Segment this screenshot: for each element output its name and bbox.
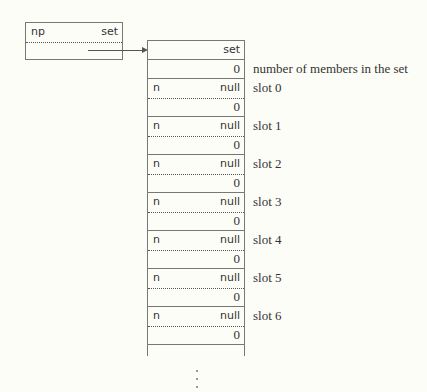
open-row [148, 344, 244, 356]
slot-value: 0 [234, 213, 241, 229]
slot-row-5: nnull 0 [148, 268, 244, 306]
slot-label-3: slot 3 [253, 194, 282, 210]
count-value: 0 [234, 61, 241, 77]
slot-next: null [220, 271, 240, 284]
pointer-arrow-line [88, 50, 145, 51]
set-struct-column: set 0 nnull 0 nnull 0 nnull 0 nnull 0 nn… [147, 40, 245, 356]
slot-label-2: slot 2 [253, 156, 282, 172]
slot-next: null [220, 309, 240, 322]
slot-name: n [153, 309, 160, 322]
set-type-label: set [101, 25, 118, 38]
count-row: 0 [148, 59, 244, 78]
slot-value: 0 [234, 99, 241, 115]
slot-next: null [220, 195, 240, 208]
slot-name: n [153, 233, 160, 246]
slot-name: n [153, 157, 160, 170]
count-annotation: number of members in the set [253, 61, 408, 77]
slot-next: null [220, 81, 240, 94]
slot-row-3: nnull 0 [148, 192, 244, 230]
slot-label-4: slot 4 [253, 232, 282, 248]
slot-row-2: nnull 0 [148, 154, 244, 192]
slot-label-0: slot 0 [253, 80, 282, 96]
continuation-dot [196, 378, 198, 380]
slot-value: 0 [234, 327, 241, 343]
np-pointer-box: np set [25, 22, 123, 60]
slot-name: n [153, 195, 160, 208]
slot-name: n [153, 81, 160, 94]
slot-value: 0 [234, 175, 241, 191]
slot-row-0: nnull 0 [148, 78, 244, 116]
slot-next: null [220, 233, 240, 246]
slot-value: 0 [234, 137, 241, 153]
slot-name: n [153, 271, 160, 284]
slot-label-1: slot 1 [253, 118, 282, 134]
set-header-row: set [148, 40, 244, 59]
np-label: np [31, 25, 45, 38]
slot-value: 0 [234, 251, 241, 267]
slot-next: null [220, 157, 240, 170]
slot-next: null [220, 119, 240, 132]
slot-row-6: nnull 0 [148, 306, 244, 344]
slot-row-4: nnull 0 [148, 230, 244, 268]
slot-name: n [153, 119, 160, 132]
np-pointer-header: np set [26, 23, 122, 43]
slot-label-6: slot 6 [253, 308, 282, 324]
slot-row-1: nnull 0 [148, 116, 244, 154]
slot-value: 0 [234, 289, 241, 305]
set-header-label: set [223, 43, 240, 56]
continuation-dot [196, 386, 198, 388]
continuation-dot [196, 370, 198, 372]
slot-label-5: slot 5 [253, 270, 282, 286]
